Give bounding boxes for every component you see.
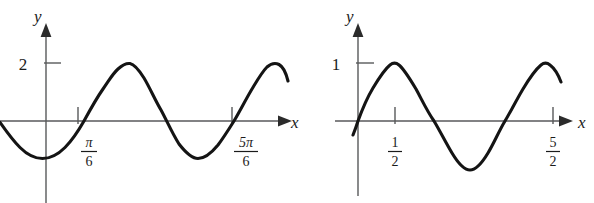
right-y-axis-label: y <box>344 7 354 26</box>
left-y-tick-label-2: 2 <box>19 55 28 74</box>
left-x-axis-arrowhead <box>278 116 292 127</box>
right-chart-svg: y x 1 1 2 5 2 <box>300 0 594 203</box>
left-x-tick-label-5pi-over-6: 5π 6 <box>234 135 258 169</box>
left-frac2-numerator: 5π <box>239 135 254 150</box>
right-frac1-denominator: 2 <box>392 154 399 169</box>
left-chart-svg: y x 2 π 6 5π 6 <box>0 0 300 203</box>
right-x-tick-label-5-over-2: 5 2 <box>546 135 560 169</box>
figure-pair: y x 2 π 6 5π 6 <box>0 0 594 203</box>
left-y-axis-label: y <box>32 7 42 26</box>
right-x-tick-label-1-over-2: 1 2 <box>388 135 402 169</box>
right-frac2-numerator: 5 <box>550 135 557 150</box>
left-frac2-denominator: 6 <box>243 154 250 169</box>
left-y-axis-arrowhead <box>41 23 52 37</box>
right-y-axis-arrowhead <box>353 23 364 37</box>
right-frac1-numerator: 1 <box>392 135 399 150</box>
right-x-axis-label: x <box>577 113 586 132</box>
right-frac2-denominator: 2 <box>550 154 557 169</box>
right-x-axis-arrowhead <box>559 116 573 127</box>
left-x-tick-label-pi-over-6: π 6 <box>81 135 97 169</box>
right-sinusoid-curve <box>353 63 561 170</box>
left-x-axis-label: x <box>290 113 299 132</box>
left-frac1-denominator: 6 <box>86 154 93 169</box>
right-y-tick-label-1: 1 <box>332 55 341 74</box>
chart-panel-right: y x 1 1 2 5 2 <box>300 0 594 203</box>
left-frac1-numerator: π <box>85 135 93 150</box>
chart-panel-left: y x 2 π 6 5π 6 <box>0 0 300 203</box>
